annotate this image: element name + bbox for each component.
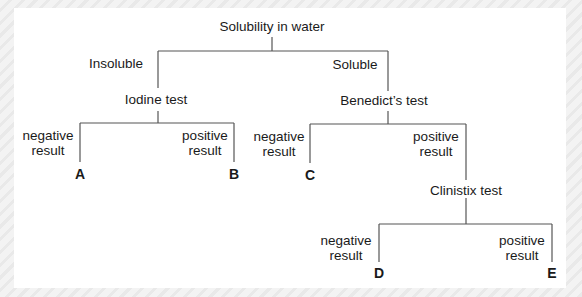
branch-label-clinistix-negative: negative result	[320, 233, 371, 263]
leaf-a: A	[75, 167, 85, 182]
leaf-e: E	[547, 266, 556, 281]
node-benedicts-test: Benedict’s test	[340, 93, 428, 108]
node-iodine-test: Iodine test	[125, 92, 187, 107]
root-node-label: Solubility in water	[219, 19, 324, 34]
leaf-b: B	[229, 167, 239, 182]
branch-label-soluble: Soluble	[332, 57, 377, 72]
branch-label-clinistix-positive: positive result	[499, 233, 545, 263]
branch-label-benedict-negative: negative result	[253, 129, 304, 159]
branch-label-iodine-positive: positive result	[182, 128, 228, 158]
node-clinistix-test: Clinistix test	[430, 183, 502, 198]
branch-label-iodine-negative: negative result	[22, 128, 73, 158]
leaf-d: D	[374, 266, 384, 281]
branch-label-benedict-positive: positive result	[413, 129, 459, 159]
leaf-c: C	[305, 168, 315, 183]
branch-label-insoluble: Insoluble	[89, 56, 143, 71]
